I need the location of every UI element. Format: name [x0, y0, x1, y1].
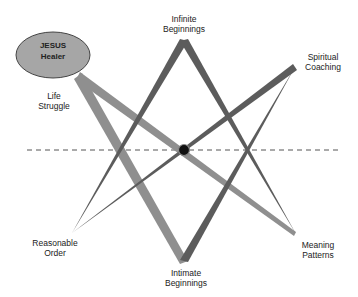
node-label-line2: Healer	[16, 51, 90, 62]
label-reasonable-order: Reasonable Order	[28, 238, 82, 258]
label-life-struggle: Life Struggle	[32, 91, 76, 111]
star-stroke-bottom-right-to-top	[180, 39, 296, 234]
label-line: Intimate	[160, 268, 212, 278]
label-line: Beginnings	[160, 278, 212, 288]
node-label-line1: JESUS	[16, 40, 90, 51]
label-line: Beginnings	[157, 24, 211, 34]
label-spiritual-coaching: Spiritual Coaching	[298, 52, 348, 72]
label-infinite-beginnings: Infinite Beginnings	[157, 14, 211, 34]
label-line: Infinite	[157, 14, 211, 24]
label-line: Struggle	[32, 101, 76, 111]
label-line: Spiritual	[298, 52, 348, 62]
jesus-healer-label: JESUS Healer	[16, 40, 90, 62]
label-meaning-patterns: Meaning Patterns	[297, 240, 339, 260]
label-line: Life	[32, 91, 76, 101]
label-line: Meaning	[297, 240, 339, 250]
label-intimate-beginnings: Intimate Beginnings	[160, 268, 212, 288]
star-stroke-node-to-bottom	[74, 73, 188, 264]
center-dot	[179, 145, 190, 156]
star-stroke-top-to-bottom-left	[72, 39, 188, 233]
label-line: Coaching	[298, 62, 348, 72]
label-line: Order	[28, 248, 82, 258]
label-line: Reasonable	[28, 238, 82, 248]
label-line: Patterns	[297, 250, 339, 260]
